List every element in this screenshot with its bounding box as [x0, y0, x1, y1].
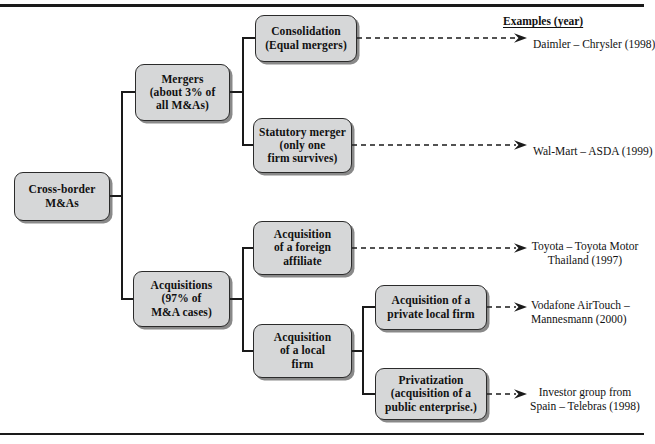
- node-line: public enterprise.): [385, 401, 477, 414]
- node-line: Acquisition: [274, 228, 331, 241]
- node-acquisitions[interactable]: Acquisitions (97% of M&A cases): [133, 271, 230, 327]
- wire-acquisitions-to-local: [243, 299, 253, 351]
- node-line: private local firm: [387, 308, 474, 321]
- wire-root-to-acquisitions: [122, 196, 133, 299]
- node-line: (about 3% of: [150, 86, 216, 99]
- example-line: Daimler – Chrysler (1998): [533, 37, 655, 51]
- arrowhead-consolidation: [514, 33, 527, 43]
- example-toyota-thailand: Toyota – Toyota Motor Thailand (1997): [530, 239, 640, 267]
- node-line: M&As: [45, 197, 79, 210]
- node-acquisition-local-firm[interactable]: Acquisition of a local firm: [253, 324, 352, 378]
- example-line: Toyota – Toyota Motor: [530, 239, 640, 253]
- node-consolidation[interactable]: Consolidation (Equal mergers): [255, 15, 357, 62]
- node-cross-border-mnas[interactable]: Cross-border M&As: [14, 172, 110, 221]
- node-statutory-merger[interactable]: Statutory merger (only one firm survives…: [253, 118, 352, 173]
- node-line: of a local: [280, 344, 325, 357]
- node-privatization[interactable]: Privatization (acquisition of a public e…: [375, 368, 487, 420]
- node-mergers[interactable]: Mergers (about 3% of all M&As): [135, 64, 230, 121]
- wire-acquisitions-to-foreign: [230, 248, 253, 299]
- node-line: affiliate: [283, 255, 322, 268]
- example-line: Investor group from: [528, 385, 642, 399]
- node-line: Consolidation: [271, 25, 341, 38]
- node-line: M&A cases): [151, 306, 212, 319]
- node-line: Cross-border: [29, 183, 96, 196]
- node-line: of a foreign: [274, 241, 331, 254]
- node-acquisition-foreign-affiliate[interactable]: Acquisition of a foreign affiliate: [253, 221, 352, 275]
- example-line: Thailand (1997): [530, 253, 640, 267]
- example-walmart-asda: Wal-Mart – ASDA (1999): [533, 144, 653, 158]
- example-line: Vodafone AirTouch –: [531, 298, 630, 312]
- node-line: Mergers: [161, 73, 203, 86]
- example-line: Spain – Telebras (1998): [528, 399, 642, 413]
- example-investor-group-telebras: Investor group from Spain – Telebras (19…: [528, 385, 642, 413]
- node-line: Acquisition of a: [392, 294, 471, 307]
- node-line: Acquisitions: [151, 279, 213, 292]
- node-line: (only one: [280, 139, 326, 152]
- node-line: Acquisition: [274, 331, 331, 344]
- wire-local-to-privatization: [363, 351, 375, 394]
- node-line: (97% of: [162, 292, 202, 305]
- node-line: firm survives): [267, 152, 337, 165]
- example-line: Wal-Mart – ASDA (1999): [533, 144, 653, 158]
- example-vodafone-mannesmann: Vodafone AirTouch – Mannesmann (2000): [531, 298, 630, 326]
- example-daimler-chrysler: Daimler – Chrysler (1998): [533, 37, 655, 51]
- wire-mergers-to-statutory: [243, 92, 253, 145]
- node-line: (Equal mergers): [265, 39, 347, 52]
- node-line: Privatization: [398, 374, 463, 387]
- node-line: all M&As): [156, 99, 209, 112]
- node-line: firm: [291, 358, 313, 371]
- wire-mergers-to-consolidation: [230, 38, 255, 92]
- examples-column-header: Examples (year): [503, 15, 583, 27]
- node-line: (acquisition of a: [391, 387, 471, 400]
- node-line: Statutory merger: [259, 126, 346, 139]
- wire-local-to-private: [350, 307, 375, 351]
- node-acquisition-private-local-firm[interactable]: Acquisition of a private local firm: [375, 285, 487, 330]
- example-line: Mannesmann (2000): [531, 312, 630, 326]
- wire-root-to-mergers: [110, 92, 135, 196]
